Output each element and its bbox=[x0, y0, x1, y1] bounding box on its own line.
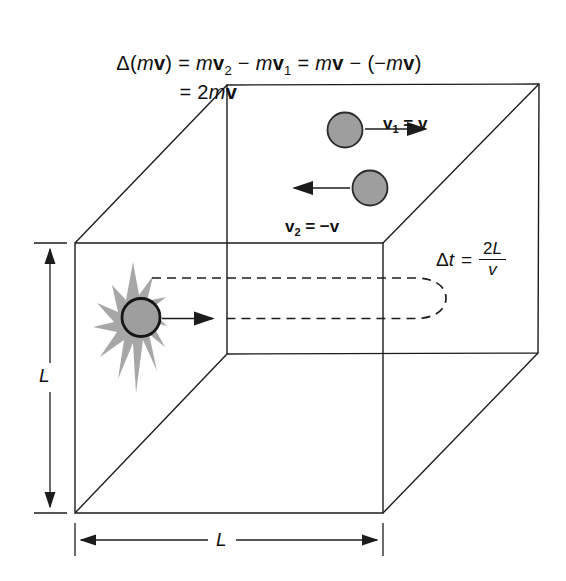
width-dimension bbox=[75, 523, 383, 556]
v2-equals: = − bbox=[301, 217, 330, 236]
v2-value: v bbox=[330, 217, 339, 236]
equation-part: m bbox=[209, 81, 226, 103]
equation-part: = 2 bbox=[179, 81, 208, 103]
cube-edge-bottom-left bbox=[75, 354, 227, 513]
v1-vector-symbol: v bbox=[383, 114, 392, 133]
equation-part: ) bbox=[415, 52, 422, 74]
v2-label: v2 = −v bbox=[266, 197, 339, 257]
molecule-before-collision bbox=[328, 113, 363, 148]
equation-part: v bbox=[226, 81, 237, 103]
molecule-in-box bbox=[122, 299, 160, 337]
v2-vector-symbol: v bbox=[285, 217, 294, 236]
numerator-variable: L bbox=[493, 239, 502, 258]
v1-value: v bbox=[418, 114, 427, 133]
equation-part: = bbox=[292, 52, 316, 74]
transit-time-equation: Δt = 2L v bbox=[436, 240, 506, 279]
equation-part: − (− bbox=[344, 52, 387, 74]
equation-part: v bbox=[332, 52, 343, 74]
momentum-change-equation-line1: Δ(mv) = mv2 − mv1 = mv − (−mv) bbox=[94, 29, 422, 98]
equation-subscript: 1 bbox=[284, 63, 292, 78]
v1-label: v1 = v bbox=[364, 94, 427, 154]
kinetic-theory-box-figure: Δ(mv) = mv2 − mv1 = mv − (−mv) = 2mv v1 … bbox=[0, 0, 566, 581]
numerator-coefficient: 2 bbox=[483, 239, 492, 258]
momentum-change-equation-line2: = 2mv bbox=[156, 58, 237, 127]
time-variable: t bbox=[449, 249, 454, 270]
equation-part: m bbox=[256, 52, 273, 74]
delta-symbol: Δ bbox=[436, 249, 449, 270]
equation-part: m bbox=[386, 52, 403, 74]
equals-sign: = bbox=[461, 249, 472, 271]
cube-front-face bbox=[75, 243, 383, 513]
equation-part: m bbox=[137, 52, 154, 74]
height-dimension-label: L bbox=[39, 365, 50, 387]
equation-part: v bbox=[403, 52, 414, 74]
molecule-after-collision bbox=[353, 171, 388, 206]
delta-t-term: Δt bbox=[436, 249, 454, 271]
fraction-numerator: 2L bbox=[479, 240, 506, 260]
v1-equals: = bbox=[399, 114, 418, 133]
equation-part: v bbox=[273, 52, 284, 74]
fraction-denominator: v bbox=[488, 260, 497, 280]
fraction: 2L v bbox=[479, 240, 506, 279]
width-dimension-label: L bbox=[216, 529, 227, 551]
equation-part: Δ( bbox=[116, 52, 137, 74]
round-trip-path bbox=[152, 278, 446, 319]
cube-edge-bottom-right bbox=[383, 353, 538, 513]
equation-part: m bbox=[315, 52, 332, 74]
